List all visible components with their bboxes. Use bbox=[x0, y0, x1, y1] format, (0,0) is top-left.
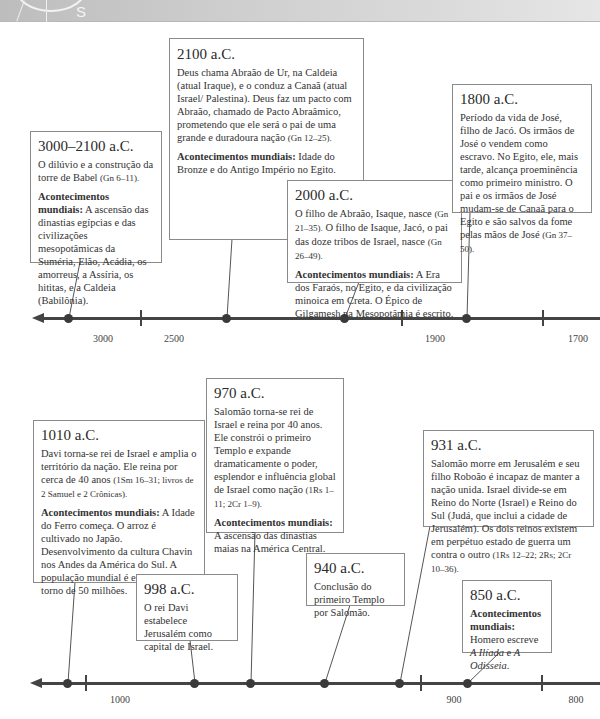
event-description: Salomão morre em Jerusalém e seu filho R… bbox=[431, 457, 586, 576]
event-marker bbox=[395, 679, 404, 688]
event-box-1010: 1010 a.C. Davi torna-se rei de Israel e … bbox=[33, 420, 205, 583]
world-events-text: Homero escreve bbox=[470, 634, 539, 645]
tick bbox=[140, 310, 142, 326]
event-description: Salomão torna-se rei de Israel e reina p… bbox=[214, 405, 336, 511]
world-events-label: Acontecimentos mundiais: bbox=[295, 269, 414, 280]
event-text: O filho de Abraão, Isaque, nasce bbox=[295, 208, 434, 219]
event-text: Conclusão do primeiro Templo por Salomão… bbox=[314, 581, 385, 618]
event-date: 1010 a.C. bbox=[41, 426, 197, 444]
world-events: Acontecimentos mundiais: Idade do Bronze… bbox=[177, 150, 356, 176]
event-marker bbox=[320, 679, 329, 688]
header-band: S bbox=[0, 0, 600, 22]
tick bbox=[541, 675, 543, 691]
event-text: Período da vida de José, filho de Jacó. … bbox=[460, 112, 578, 240]
world-events-text: e bbox=[504, 647, 514, 658]
timeline-axis bbox=[38, 682, 600, 685]
event-date: 940 a.C. bbox=[314, 559, 397, 577]
world-events: Acontecimentos mundiais: A Era dos Faraó… bbox=[295, 268, 454, 320]
event-marker bbox=[64, 314, 73, 323]
axis-label: 800 bbox=[569, 694, 584, 705]
world-events-text: . bbox=[507, 660, 510, 671]
event-marker bbox=[246, 679, 255, 688]
event-date: 2100 a.C. bbox=[177, 45, 356, 63]
event-date: 998 a.C. bbox=[144, 580, 230, 598]
world-events-label: Acontecimentos mundiais: bbox=[177, 151, 296, 162]
world-events-label: Acontecimentos mundiais: bbox=[470, 608, 541, 632]
event-description: O rei Davi estabelece Jerusalém como cap… bbox=[144, 601, 230, 653]
axis-label: 3000 bbox=[93, 333, 113, 344]
event-date: 970 a.C. bbox=[214, 384, 336, 402]
event-box-931: 931 a.C. Salomão morre em Jerusalém e se… bbox=[423, 430, 594, 527]
event-box-940: 940 a.C. Conclusão do primeiro Templo po… bbox=[306, 553, 405, 606]
event-box-970: 970 a.C. Salomão torna-se rei de Israel … bbox=[206, 378, 344, 533]
event-text: O rei Davi estabelece Jerusalém como cap… bbox=[144, 602, 213, 652]
event-marker bbox=[463, 679, 472, 688]
compass-line bbox=[46, 0, 47, 22]
event-text: Salomão torna-se rei de Israel e reina p… bbox=[214, 406, 336, 495]
world-events: Acontecimentos mundiais: Homero escreve … bbox=[470, 607, 544, 672]
world-events-label: Acontecimentos mundiais: bbox=[214, 517, 333, 528]
event-date: 850 a.C. bbox=[470, 586, 544, 604]
event-text: Deus chama Abraão de Ur, na Caldeia (atu… bbox=[177, 67, 352, 143]
event-box-998: 998 a.C. O rei Davi estabelece Jerusalém… bbox=[136, 574, 238, 641]
event-marker bbox=[462, 314, 471, 323]
event-description: Conclusão do primeiro Templo por Salomão… bbox=[314, 580, 397, 619]
compass-letter: S bbox=[76, 3, 86, 20]
event-marker bbox=[63, 679, 72, 688]
tick bbox=[85, 675, 87, 691]
event-description: O filho de Abraão, Isaque, nasce (Gn 21–… bbox=[295, 207, 454, 263]
event-marker bbox=[190, 679, 199, 688]
world-events: Acontecimentos mundiais: A ascensão das … bbox=[214, 516, 336, 555]
axis-label: 900 bbox=[447, 694, 462, 705]
event-box-850: 850 a.C. Acontecimentos mundiais: Homero… bbox=[462, 580, 552, 653]
work-title: A Ilíada bbox=[470, 647, 504, 658]
event-box-1800: 1800 a.C. Período da vida de José, filho… bbox=[452, 84, 592, 213]
event-description: Período da vida de José, filho de Jacó. … bbox=[460, 111, 584, 256]
axis-label: 1700 bbox=[568, 333, 588, 344]
event-date: 931 a.C. bbox=[431, 436, 586, 454]
event-marker bbox=[222, 314, 231, 323]
tick bbox=[542, 310, 544, 326]
event-description: Davi torna-se rei de Israel e amplia o t… bbox=[41, 447, 197, 501]
world-events-label: Acontecimentos mundiais: bbox=[41, 507, 160, 518]
axis-label: 1900 bbox=[425, 333, 445, 344]
world-events-text: A ascensão das dinastias maias na Améric… bbox=[214, 530, 325, 554]
tick bbox=[420, 675, 422, 691]
event-box-3000-2100: 3000–2100 a.C. O dilúvio e a construção … bbox=[30, 131, 162, 263]
event-box-2000: 2000 a.C. O filho de Abraão, Isaque, nas… bbox=[287, 180, 462, 283]
axis-label: 2500 bbox=[164, 333, 184, 344]
event-description: Deus chama Abraão de Ur, na Caldeia (atu… bbox=[177, 66, 356, 145]
scripture-ref: (Gn 6–11). bbox=[100, 173, 139, 183]
event-text: Salomão morre em Jerusalém e seu filho R… bbox=[431, 458, 580, 560]
axis-label: 1000 bbox=[110, 694, 130, 705]
event-date: 3000–2100 a.C. bbox=[38, 137, 154, 155]
event-date: 2000 a.C. bbox=[295, 186, 454, 204]
scripture-ref: (Gn 12–25). bbox=[288, 133, 332, 143]
world-events-text: A ascensão das dinastias egípcias e das … bbox=[38, 204, 149, 306]
compass-line bbox=[16, 0, 24, 21]
event-description: O dilúvio e a construção da torre de Bab… bbox=[38, 158, 154, 185]
event-date: 1800 a.C. bbox=[460, 90, 584, 108]
world-events: Acontecimentos mundiais: A ascensão das … bbox=[38, 190, 154, 307]
